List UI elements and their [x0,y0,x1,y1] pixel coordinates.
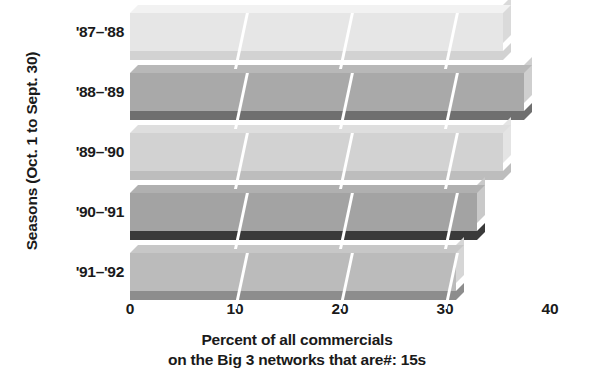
x-axis-tick-labels: 0 10 20 30 40 [130,300,570,322]
category-label-4: '91–'92 [76,263,124,281]
x-axis-title: Percent of all commercials on the Big 3 … [0,330,594,370]
bar-shadow-cap [503,43,511,60]
bar-chart: Seasons (Oct. 1 to Sept. 30) '87–'88 '88… [0,0,594,380]
bar-3 [130,193,477,231]
bar-bottom-shadow [130,291,456,300]
bar-shadow-cap [524,103,532,120]
bar-shadow-cap [477,223,485,240]
bar-row [130,240,550,300]
x-axis-title-line-1: Percent of all commercials [0,330,594,350]
bar-right-cap [477,177,485,223]
bar-row [130,60,550,120]
bar-top-face [130,125,511,133]
category-label-3: '90–'91 [76,203,124,221]
category-label-1: '88–'89 [76,83,124,101]
category-label-2: '89–'90 [76,143,124,161]
bar-front-face [130,133,503,171]
bar-0 [130,13,503,51]
y-axis-tick-labels: '87–'88 '88–'89 '89–'90 '90–'91 '91–'92 [0,0,128,300]
x-tick-0: 0 [126,300,135,318]
bar-front-face [130,73,524,111]
bar-top-face [130,185,485,193]
bar-bottom-shadow [130,111,524,120]
bar-top-face [130,5,511,13]
bar-right-cap [503,117,511,163]
bar-bottom-shadow [130,231,477,240]
bar-row [130,180,550,240]
bar-front-face [130,13,503,51]
bar-1 [130,73,524,111]
bar-shadow-cap [503,163,511,180]
bar-row [130,120,550,180]
bar-row [130,0,550,60]
bar-top-face [130,245,464,253]
bar-top-face [130,65,532,73]
bar-shadow-cap [456,283,464,300]
bar-front-face [130,193,477,231]
x-axis-title-line-2: on the Big 3 networks that are#: 15s [0,350,594,370]
bar-front-face [130,253,456,291]
bar-right-cap [524,57,532,103]
bar-2 [130,133,503,171]
x-tick-4: 40 [541,300,558,318]
plot-area [130,0,550,300]
category-label-0: '87–'88 [76,23,124,41]
bar-4 [130,253,456,291]
